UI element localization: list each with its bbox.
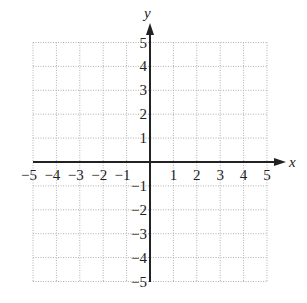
x-tick-label: −3 (68, 167, 84, 183)
y-tick-label: 2 (140, 106, 148, 122)
x-tick-label: 2 (193, 167, 201, 183)
x-tick-label: −1 (115, 167, 131, 183)
y-tick-label: −5 (131, 274, 147, 290)
x-tick-label: 5 (263, 167, 271, 183)
y-tick-label: 3 (140, 82, 148, 98)
y-tick-label: 4 (140, 58, 148, 74)
y-axis-label: y (142, 5, 151, 21)
y-tick-label: −3 (131, 226, 147, 242)
y-axis-arrow-icon (146, 23, 154, 35)
y-tick-label: −2 (131, 202, 147, 218)
x-tick-label: 4 (240, 167, 248, 183)
x-tick-label: −2 (91, 167, 107, 183)
y-tick-label: −4 (131, 250, 147, 266)
x-tick-label: 3 (216, 167, 224, 183)
y-tick-label: 5 (140, 35, 148, 51)
y-tick-label: 1 (140, 130, 148, 146)
axes: x y (33, 5, 296, 282)
x-tick-label: −5 (21, 167, 37, 183)
y-tick-label: −1 (131, 178, 147, 194)
coordinate-plane: x y −5−4−3−2−112345 54321−1−2−3−4−5 (0, 0, 307, 303)
x-axis-label: x (288, 154, 296, 170)
x-axis-arrow-icon (274, 158, 286, 166)
x-tick-label: 1 (170, 167, 178, 183)
x-tick-label: −4 (44, 167, 60, 183)
